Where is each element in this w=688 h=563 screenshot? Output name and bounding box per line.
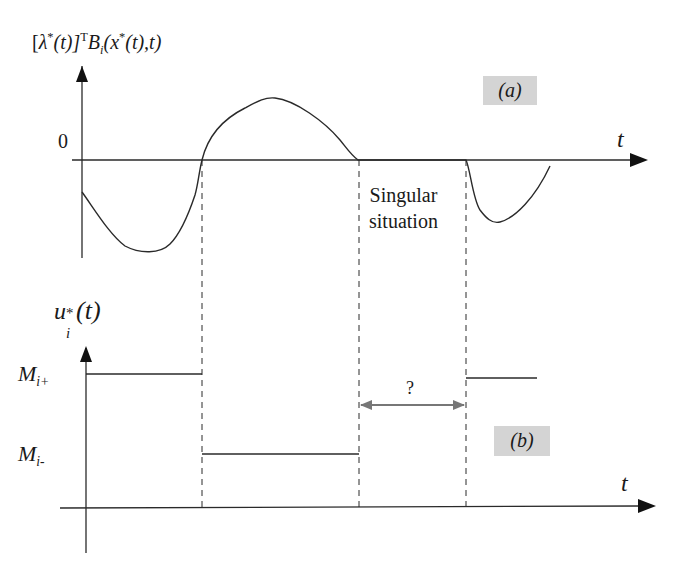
panel-a-axes	[72, 66, 648, 258]
panel-a-tag-text: (a)	[498, 79, 521, 101]
annotation-line-1: Singular	[369, 182, 438, 208]
panel-b-axes	[60, 346, 656, 553]
u-subscript: i	[66, 325, 70, 342]
switching-diagram	[0, 0, 688, 563]
panel-b-tag-text: (b)	[510, 429, 533, 451]
level-high-subscript: i+	[36, 374, 49, 389]
level-low-label: Mi-	[18, 441, 45, 470]
panel-a-x-arrowhead	[630, 153, 648, 167]
panel-b-tag: (b)	[494, 426, 550, 456]
bracket: [	[32, 31, 39, 53]
optimal-star: *	[66, 305, 73, 322]
panel-a-x-axis-label: t	[617, 126, 624, 153]
switching-function-curve	[82, 98, 550, 252]
panel-b-y-arrowhead	[80, 346, 92, 362]
panel-a-y-axis-label: [λ*(t)]TBi(x*(t),t)	[32, 30, 161, 58]
level-high-label: Mi+	[18, 361, 49, 390]
transpose-symbol: T	[80, 30, 88, 44]
panel-b-x-axis	[60, 506, 640, 508]
m-symbol: M	[18, 361, 36, 386]
time-arg: (t)	[76, 296, 101, 325]
b-matrix: B	[88, 31, 100, 53]
level-low-subscript: i-	[36, 454, 44, 469]
panel-b-y-axis-label: u*i(t)	[54, 296, 101, 326]
panel-a-tag: (a)	[483, 76, 537, 105]
state-arg: (x	[103, 31, 119, 53]
panel-b-x-axis-label: t	[621, 470, 628, 497]
time-args: (t),t)	[125, 31, 161, 53]
zero-label: 0	[58, 130, 68, 153]
annotation-line-2: situation	[369, 208, 438, 234]
time-arg: (t)]	[54, 31, 81, 53]
m-symbol: M	[18, 441, 36, 466]
unknown-interval-label: ?	[406, 378, 414, 399]
singular-situation-annotation: Singular situation	[369, 182, 438, 234]
u-symbol: u	[54, 298, 66, 324]
panel-a-y-arrowhead	[76, 66, 88, 82]
panel-b-x-arrowhead	[638, 499, 656, 513]
